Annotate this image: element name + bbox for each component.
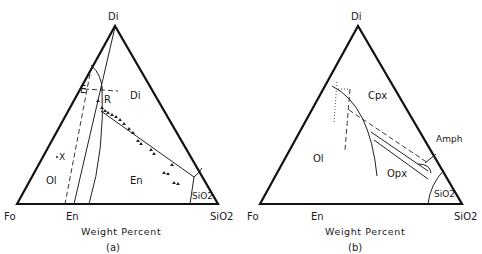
panel-b-field-amph: Amph xyxy=(436,134,462,144)
panel-a-base-en: En xyxy=(66,211,79,222)
panel-a-data-points xyxy=(96,99,180,185)
panel-b-dashed-boundary xyxy=(349,110,428,163)
panel-a-point-x xyxy=(56,156,58,158)
panel-a-point-x-label: X xyxy=(59,152,65,162)
panel-a-field-en: En xyxy=(130,175,143,186)
panel-a-di-en-join xyxy=(74,27,115,204)
panel-a-point-r-label: R xyxy=(104,94,111,105)
panel-a-vertex-sio2: SiO2 xyxy=(210,211,233,222)
panel-b-base-en: En xyxy=(311,211,324,222)
panel-a-vertex-di: Di xyxy=(108,11,118,22)
panel-b-field-ol: Ol xyxy=(313,153,324,164)
panel-a-field-ol: Ol xyxy=(46,175,57,186)
ternary-diagrams: Di Fo En SiO2 E R X Di Ol En SiO2 Weight… xyxy=(0,0,482,254)
panel-a-vertex-fo: Fo xyxy=(4,211,16,222)
panel-b-axis-label: Weight Percent xyxy=(325,226,405,237)
panel-b-caption: (b) xyxy=(348,242,362,253)
panel-b-vertex-sio2: SiO2 xyxy=(454,211,477,222)
panel-b-vertex-fo: Fo xyxy=(247,211,259,222)
panel-b: Di Fo En SiO2 Cpx Ol Opx Amph SiO2 Weigh… xyxy=(247,11,477,253)
panel-a-axis-label: Weight Percent xyxy=(81,226,161,237)
panel-a-field-sio2: SiO2 xyxy=(192,191,213,201)
panel-a-ol-en-boundary xyxy=(89,86,102,204)
panel-b-cpx-opx-boundary-1 xyxy=(371,132,428,171)
panel-b-field-cpx: Cpx xyxy=(368,90,387,101)
panel-a-di-en-cotectic xyxy=(101,111,194,177)
panel-a: Di Fo En SiO2 E R X Di Ol En SiO2 Weight… xyxy=(4,11,233,253)
panel-b-field-sio2: SiO2 xyxy=(434,189,455,199)
panel-a-field-di: Di xyxy=(130,90,140,101)
panel-b-vertex-di: Di xyxy=(351,11,361,22)
panel-b-dashed-vertical xyxy=(345,89,350,150)
panel-a-caption: (a) xyxy=(106,242,120,253)
panel-b-field-opx: Opx xyxy=(387,168,407,179)
panel-a-point-e-label: E xyxy=(80,84,86,95)
